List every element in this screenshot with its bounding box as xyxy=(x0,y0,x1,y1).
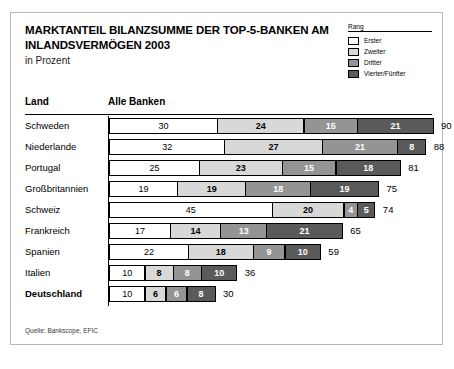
bar-row: Spanien221891059 xyxy=(25,242,434,263)
bar-segment: 22 xyxy=(109,244,189,260)
bar-row: Großbritannien1919181975 xyxy=(25,179,434,200)
bar-segment: 13 xyxy=(220,223,267,239)
bar-segment: 27 xyxy=(224,139,322,155)
legend-swatch-icon xyxy=(348,70,359,78)
chart-subtitle: in Prozent xyxy=(25,54,335,68)
bar-row-country-label: Niederlande xyxy=(25,141,76,152)
bar-row: Niederlande322721888 xyxy=(25,137,434,158)
chart-legend: Rang ErsterZweiterDritterVierter/Fünfter xyxy=(348,23,432,79)
bar-total-label: 65 xyxy=(350,225,361,236)
bar-segment: 19 xyxy=(310,181,379,197)
bar-total-label: 30 xyxy=(223,288,234,299)
bar-total-label: 81 xyxy=(408,162,419,173)
stacked-bar: 17141321 xyxy=(109,223,343,239)
bar-segment: 6 xyxy=(166,286,188,302)
bar-segment: 19 xyxy=(109,181,178,197)
bar-row: Schweiz45204574 xyxy=(25,200,434,221)
bar-segment: 21 xyxy=(357,118,433,134)
bar-segment: 8 xyxy=(145,265,174,281)
column-header-row: Land Alle Banken xyxy=(25,96,432,115)
stacked-bar: 452045 xyxy=(109,202,375,218)
bar-segment: 32 xyxy=(109,139,225,155)
bar-segment: 25 xyxy=(109,160,200,176)
bar-total-label: 74 xyxy=(383,204,394,215)
bar-segment: 4 xyxy=(344,202,359,218)
bar-segment: 19 xyxy=(177,181,246,197)
bar-segment: 18 xyxy=(188,244,253,260)
legend-item-label: Zweiter xyxy=(364,48,385,55)
bar-row-country-label: Spanien xyxy=(25,246,60,257)
legend-swatch-icon xyxy=(348,37,359,45)
bar-segment: 8 xyxy=(173,265,202,281)
bar-segment: 10 xyxy=(285,244,321,260)
bar-segment: 24 xyxy=(217,118,304,134)
bar-segment: 20 xyxy=(272,202,345,218)
bar-row-country-label: Portugal xyxy=(25,162,60,173)
legend-item: Vierter/Fünfter xyxy=(348,68,432,79)
chart-title-line-2: INLANDSVERMÖGEN 2003 xyxy=(25,38,335,53)
column-header-value: Alle Banken xyxy=(108,96,165,107)
bar-total-label: 75 xyxy=(387,183,398,194)
bar-segment: 23 xyxy=(199,160,283,176)
bar-segment: 6 xyxy=(145,286,167,302)
bar-total-label: 88 xyxy=(434,141,445,152)
bar-row: Portugal2523151881 xyxy=(25,158,434,179)
legend-item: Dritter xyxy=(348,57,432,68)
source-note: Quelle: Bankscope, EFIC xyxy=(25,327,98,334)
bar-row: Deutschland1066830 xyxy=(25,284,434,305)
bar-segment: 10 xyxy=(109,265,145,281)
bar-segment: 30 xyxy=(109,118,218,134)
bar-segment: 18 xyxy=(245,181,310,197)
bar-segment: 17 xyxy=(109,223,171,239)
bar-segment: 8 xyxy=(397,139,426,155)
legend-item: Zweiter xyxy=(348,46,432,57)
chart-header: MARKTANTEIL BILANZSUMME DER TOP-5-BANKEN… xyxy=(25,23,335,68)
bar-segment: 45 xyxy=(109,202,273,218)
stacked-bar: 2218910 xyxy=(109,244,321,260)
bar-row-country-label: Schweiz xyxy=(25,204,60,215)
bar-segment: 18 xyxy=(336,160,401,176)
legend-item-label: Erster xyxy=(364,37,381,44)
bar-row-country-label: Großbritannien xyxy=(25,183,88,194)
bar-row-country-label: Deutschland xyxy=(25,288,82,299)
bar-segment: 21 xyxy=(322,139,398,155)
bar-row: Frankreich1714132165 xyxy=(25,221,434,242)
legend-item-label: Dritter xyxy=(364,59,382,66)
bar-segment: 15 xyxy=(282,160,337,176)
bar-segment: 15 xyxy=(304,118,359,134)
column-header-country: Land xyxy=(25,96,49,107)
stacked-bar: 25231518 xyxy=(109,160,401,176)
stacked-bar: 30241521 xyxy=(109,118,434,134)
stacked-bar: 3227218 xyxy=(109,139,426,155)
chart-title-line-1: MARKTANTEIL BILANZSUMME DER TOP-5-BANKEN… xyxy=(25,23,335,38)
bar-row: Italien10881036 xyxy=(25,263,434,284)
bar-segment: 14 xyxy=(170,223,221,239)
bar-segment: 10 xyxy=(109,286,145,302)
stacked-bar: 10668 xyxy=(109,286,216,302)
bar-row-country-label: Frankreich xyxy=(25,225,70,236)
bar-row-country-label: Italien xyxy=(25,267,50,278)
legend-items: ErsterZweiterDritterVierter/Fünfter xyxy=(348,35,432,79)
bar-total-label: 36 xyxy=(245,267,256,278)
chart-plot-area: Schweden3024152190Niederlande322721888Po… xyxy=(25,116,434,306)
legend-title: Rang xyxy=(348,23,432,32)
stacked-bar: 108810 xyxy=(109,265,237,281)
bar-row-country-label: Schweden xyxy=(25,120,69,131)
bar-segment: 9 xyxy=(253,244,286,260)
chart-figure: MARKTANTEIL BILANZSUMME DER TOP-5-BANKEN… xyxy=(10,12,443,345)
legend-swatch-icon xyxy=(348,48,359,56)
bar-segment: 21 xyxy=(266,223,342,239)
bar-segment: 5 xyxy=(357,202,375,218)
bar-segment: 10 xyxy=(201,265,237,281)
bar-row: Schweden3024152190 xyxy=(25,116,434,137)
legend-swatch-icon xyxy=(348,59,359,67)
bar-segment: 8 xyxy=(187,286,216,302)
legend-item: Erster xyxy=(348,35,432,46)
stacked-bar: 19191819 xyxy=(109,181,379,197)
legend-item-label: Vierter/Fünfter xyxy=(364,70,405,77)
bar-total-label: 90 xyxy=(441,120,452,131)
bar-total-label: 59 xyxy=(328,246,339,257)
